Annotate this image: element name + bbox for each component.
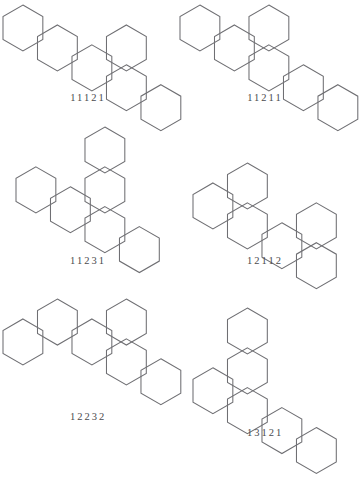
hexagon-cell [249,5,289,51]
hexagon-lattice-12112 [190,160,339,292]
hexagon-cell [228,163,268,209]
hexagon-cell [228,203,268,249]
hexagon-cell [193,368,233,414]
hexagon-cell [51,187,91,233]
hexagon-cell [3,319,43,365]
figure-label: 12232 [0,412,176,423]
figure-12112 [177,160,353,292]
hexagon-cell [37,25,77,71]
figure-13121 [177,305,353,477]
figure-11231 [0,124,176,276]
hexagon-cell [193,183,233,229]
hexagon-cell [72,45,112,91]
hexagon-cell [37,299,77,345]
hexagon-cell [214,25,254,71]
hexagon-cell [85,167,125,213]
figure-11211 [177,2,353,134]
figure-label: 13121 [177,428,353,439]
hexagon-cell [180,5,220,51]
hexagon-cell [16,167,56,213]
hexagon-lattice-11211 [177,2,361,134]
figure-label: 12112 [177,256,353,267]
figure-label: 11231 [0,256,176,267]
hexagon-lattice-11121 [0,2,184,134]
hexagon-lattice-11231 [13,124,162,276]
hexagon-cell [106,299,146,345]
hexagon-cell [85,127,125,173]
figure-11121 [0,2,176,134]
figure-label: 11211 [177,93,353,104]
hexagon-lattice-12232 [0,296,184,408]
hexagon-lattice-13121 [190,305,339,477]
hexagon-cell [106,339,146,385]
hexagon-cell [318,85,358,131]
hexagon-cell [106,65,146,111]
hexagon-cell [228,348,268,394]
hexagon-cell [297,203,337,249]
hexagon-cell [249,45,289,91]
hexagon-cell [72,319,112,365]
hexagon-cell [3,5,43,51]
hexagon-cell [85,207,125,253]
figure-label: 11121 [0,93,176,104]
figure-12232 [0,296,176,408]
hexagon-cell [228,308,268,354]
hexagon-cell [141,359,181,405]
hexagon-cell [283,65,323,111]
hexagon-cell [106,25,146,71]
